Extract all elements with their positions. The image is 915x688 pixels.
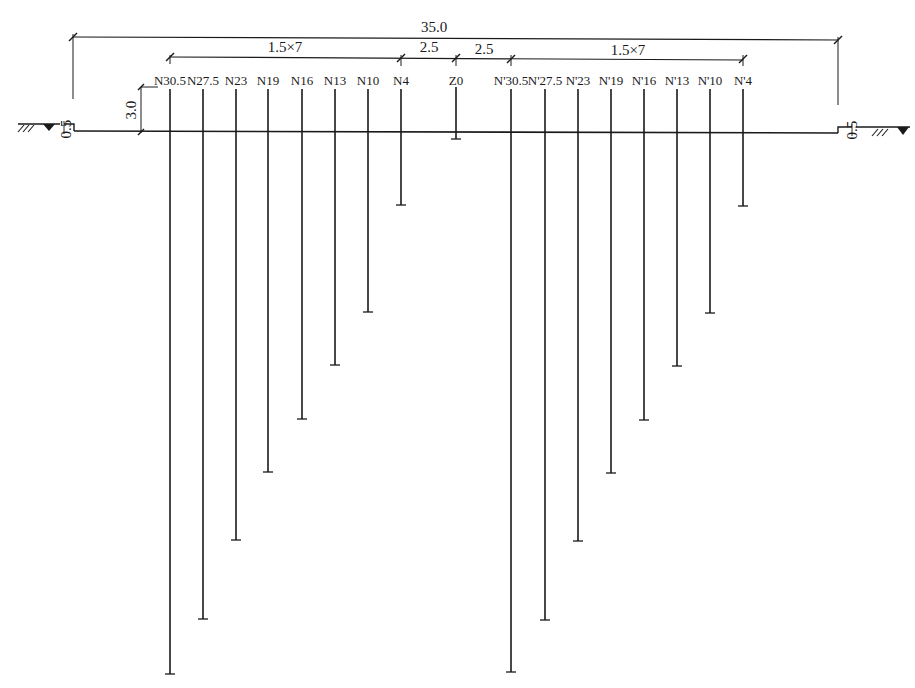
pile [540,89,550,620]
pile-label: N16 [291,73,314,88]
piles-group [165,87,748,674]
pile [198,89,208,619]
pile [639,89,649,420]
right-gap-dimension-label: 2.5 [475,41,494,57]
pile-label: N'19 [599,73,624,88]
pile [231,89,241,540]
pile [573,89,583,541]
pile-label: N4 [393,73,409,88]
pile [738,89,748,206]
pile [672,89,682,366]
pile-label: N'23 [566,73,591,88]
pile-label: Z0 [449,73,463,88]
pile-label: N'30.5 [494,73,528,88]
left-group-dimension-label: 1.5×7 [268,39,303,55]
pile-label: N13 [324,73,346,88]
pile-label: N30.5 [154,73,186,88]
pile-label: N'10 [698,73,723,88]
pile-labels-group: N30.5N27.5N23N19N16N13N10N4Z0N'30.5N'27.… [154,73,753,88]
pile-label: N'27.5 [528,73,562,88]
ground-line [64,121,852,136]
pile [363,89,373,312]
pile-label: N'4 [734,73,753,88]
pile [606,89,616,473]
pile [705,89,715,313]
ground-hatch-left-icon [18,124,60,132]
pile [297,89,307,419]
dimension-height [138,84,158,135]
pile [506,89,516,672]
pile-label: N10 [357,73,379,88]
right-step-dimension-label: 0.5 [844,121,860,140]
pile-label: N'13 [665,73,690,88]
pile-layout-drawing: 35.0 1.5×7 2.5 2.5 1.5×7 3.0 0.5 0.5 N30… [0,0,915,688]
pile [263,89,273,472]
pile [330,89,340,365]
pile-label: N19 [257,73,279,88]
ground-hatch-right-icon [856,127,910,136]
right-group-dimension-label: 1.5×7 [611,42,646,58]
pile-label: N'16 [632,73,657,88]
left-step-dimension-label: 0.5 [58,120,74,139]
left-gap-dimension-label: 2.5 [420,39,439,55]
dimension-chain [166,53,747,66]
overall-dimension-label: 35.0 [421,19,447,35]
pile-label: N27.5 [187,73,219,88]
pile [165,89,175,674]
pile [396,89,406,205]
height-dimension-label: 3.0 [123,101,139,120]
pile-label: N23 [225,73,247,88]
